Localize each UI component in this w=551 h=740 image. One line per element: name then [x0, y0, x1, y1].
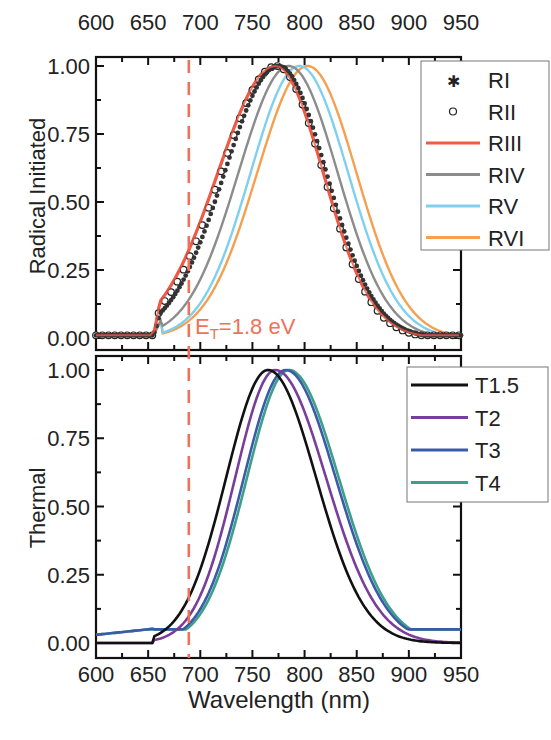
- y-tick-label: 0.25: [47, 563, 90, 588]
- legend-radical: ✱RIRIIRIIIRIVRVRVI: [421, 61, 549, 251]
- star-marker: [225, 161, 230, 166]
- star-marker: [235, 131, 240, 136]
- star-marker: [231, 143, 236, 148]
- star-marker: [194, 250, 199, 255]
- star-marker: [221, 174, 226, 179]
- radical-initiated-panel: 0.000.250.500.751.00✱RIRIIRIIIRIVRVRVI: [47, 54, 549, 351]
- x-tick-label: 850: [338, 662, 375, 687]
- star-marker: [206, 217, 211, 222]
- series-riii-line-overlay: [96, 66, 459, 335]
- y-tick-label: 0.75: [47, 426, 90, 451]
- star-marker: [192, 255, 197, 260]
- legend-box: [421, 61, 549, 250]
- star-marker: [244, 108, 249, 113]
- top-x-tick-labels: 600650700750800850900950: [78, 10, 480, 35]
- x-tick-label: 600: [78, 662, 115, 687]
- series-t4-line: [96, 370, 461, 635]
- x-tick-label: 700: [182, 662, 219, 687]
- x-tick-label: 650: [130, 662, 167, 687]
- star-marker: [204, 223, 209, 228]
- star-marker: [202, 229, 207, 234]
- top-x-tick-label: 800: [286, 10, 323, 35]
- top-x-tick-label: 600: [78, 10, 115, 35]
- top-x-tick-label: 900: [390, 10, 427, 35]
- star-marker: [217, 187, 222, 192]
- legend-circle-icon: [450, 108, 457, 115]
- legend-label-rv: RV: [488, 194, 518, 219]
- x-tick-label: 900: [390, 662, 427, 687]
- bottom-x-tick-labels: 600650700750800850900950: [78, 662, 480, 687]
- top-x-tick-label: 650: [130, 10, 167, 35]
- star-marker: [242, 113, 247, 118]
- annotation-rest: =1.8 eV: [219, 314, 296, 339]
- legend-label-rvi: RVI: [488, 226, 524, 251]
- legend-label-t2: T2: [475, 406, 501, 431]
- star-marker: [215, 193, 220, 198]
- star-marker: [238, 125, 243, 130]
- y-tick-label: 0.00: [47, 326, 90, 351]
- thermal-panel: 0.000.250.500.751.00T1.5T2T3T4: [47, 356, 548, 658]
- series-t3-line: [96, 370, 461, 635]
- top-x-tick-label: 850: [338, 10, 375, 35]
- star-marker: [190, 260, 195, 265]
- top-x-tick-label: 750: [234, 10, 271, 35]
- series-rvi-line: [96, 66, 461, 335]
- top-x-tick-label: 950: [443, 10, 480, 35]
- y-tick-label: 0.50: [47, 495, 90, 520]
- star-marker: [219, 181, 224, 186]
- star-marker: [196, 245, 201, 250]
- star-marker: [200, 235, 205, 240]
- x-axis-label: Wavelength (nm): [188, 686, 370, 713]
- legend-label-t4: T4: [475, 471, 501, 496]
- legend-label-ri: RI: [488, 68, 510, 93]
- star-marker: [252, 89, 257, 94]
- series-t1-5-line: [96, 370, 461, 643]
- y-tick-label: 0.75: [47, 122, 90, 147]
- star-marker: [183, 273, 188, 278]
- x-tick-label: 800: [286, 662, 323, 687]
- legend-label-riii: RIII: [488, 131, 522, 156]
- star-marker: [248, 98, 253, 103]
- star-marker: [223, 168, 228, 173]
- y-tick-label: 0.25: [47, 258, 90, 283]
- star-marker: [229, 149, 234, 154]
- legend-label-t3: T3: [475, 438, 501, 463]
- legend-label-riv: RIV: [488, 163, 525, 188]
- star-marker: [250, 93, 255, 98]
- top-x-tick-label: 700: [182, 10, 219, 35]
- star-marker: [240, 119, 245, 124]
- y-tick-label: 1.00: [47, 358, 90, 383]
- star-marker: [198, 240, 203, 245]
- series-t2-line: [96, 370, 461, 643]
- legend-label-rii: RII: [488, 100, 516, 125]
- plot-frame: [96, 356, 461, 658]
- threshold-annotation: ET=1.8 eV: [195, 314, 296, 342]
- plot-frame: [96, 57, 461, 350]
- legend-thermal: T1.5T2T3T4: [407, 367, 548, 502]
- y-tick-label: 0.00: [47, 631, 90, 656]
- star-marker: [208, 212, 213, 217]
- star-marker: [210, 206, 215, 211]
- spectra-figure: 600650700750800850900950 0.000.250.500.7…: [0, 0, 551, 740]
- top-y-axis-label: Radical Initiated: [25, 118, 50, 275]
- star-marker: [233, 137, 238, 142]
- star-marker: [246, 103, 251, 108]
- legend-label-t1-5: T1.5: [475, 373, 519, 398]
- x-tick-label: 750: [234, 662, 271, 687]
- legend-star-icon: ✱: [447, 73, 460, 90]
- annotation-sub: T: [210, 325, 219, 342]
- x-tick-label: 950: [443, 662, 480, 687]
- series-rii-markers: [93, 63, 463, 339]
- star-marker: [227, 155, 232, 160]
- bottom-y-axis-label: Thermal: [25, 468, 50, 549]
- y-tick-label: 0.50: [47, 190, 90, 215]
- annotation-E: E: [195, 314, 210, 339]
- star-marker: [459, 333, 464, 338]
- y-tick-label: 1.00: [47, 54, 90, 79]
- star-marker: [212, 199, 217, 204]
